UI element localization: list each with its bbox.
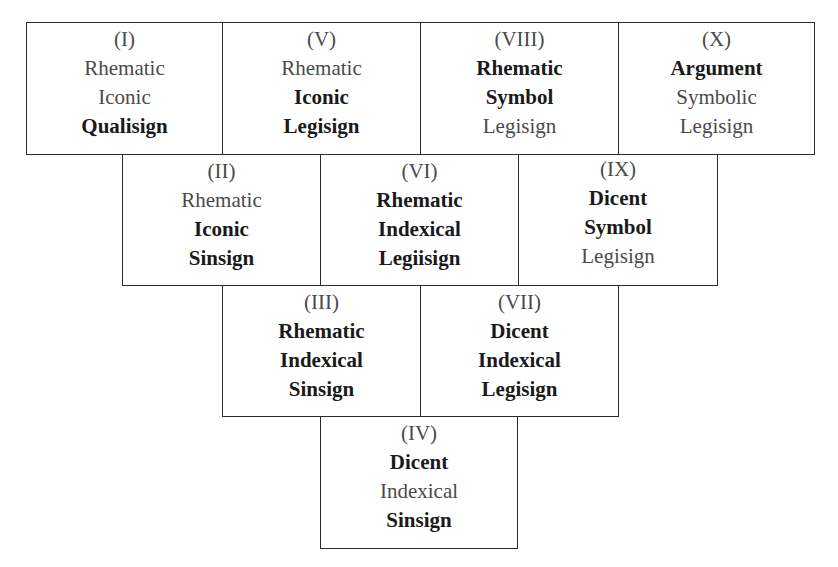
box-line-3: Legisign	[581, 242, 655, 271]
box-line-2: Iconic	[194, 215, 249, 244]
box-line-3: Legisign	[483, 112, 557, 141]
box-line-1: Rhematic	[376, 186, 462, 215]
box-line-2: Symbolic	[676, 83, 757, 112]
box-numeral: (IX)	[600, 155, 636, 184]
box-line-1: Dicent	[589, 184, 647, 213]
sign-box-I: (I) Rhematic Iconic Qualisign	[26, 22, 223, 155]
box-line-2: Indexical	[380, 477, 458, 506]
box-line-2: Indexical	[378, 215, 461, 244]
box-line-1: Rhematic	[476, 54, 562, 83]
sign-box-II: (II) Rhematic Iconic Sinsign	[122, 154, 321, 286]
box-line-3: Legisign	[284, 112, 360, 141]
box-line-3: Legisign	[482, 375, 558, 404]
box-line-1: Rhematic	[278, 317, 364, 346]
box-line-1: Rhematic	[281, 54, 361, 83]
sign-box-V: (V) Rhematic Iconic Legisign	[222, 22, 421, 155]
box-line-3: Qualisign	[81, 112, 167, 141]
box-numeral: (VII)	[498, 288, 541, 317]
box-line-1: Rhematic	[84, 54, 164, 83]
box-line-2: Iconic	[294, 83, 349, 112]
box-numeral: (VIII)	[494, 25, 544, 54]
box-line-1: Dicent	[390, 448, 448, 477]
box-line-1: Rhematic	[181, 186, 261, 215]
box-numeral: (IV)	[401, 419, 437, 448]
box-numeral: (III)	[304, 288, 339, 317]
sign-classification-diagram: (I) Rhematic Iconic Qualisign (V) Rhemat…	[0, 0, 838, 567]
box-numeral: (I)	[114, 25, 135, 54]
box-numeral: (V)	[307, 25, 336, 54]
box-line-3: Legisign	[680, 112, 754, 141]
box-line-1: Argument	[670, 54, 762, 83]
sign-box-VIII: (VIII) Rhematic Symbol Legisign	[420, 22, 619, 155]
box-line-1: Dicent	[490, 317, 548, 346]
box-line-3: Legiisign	[379, 244, 461, 273]
box-line-3: Sinsign	[386, 506, 451, 535]
sign-box-VII: (VII) Dicent Indexical Legisign	[420, 285, 619, 417]
box-numeral: (II)	[208, 157, 236, 186]
sign-box-VI: (VI) Rhematic Indexical Legiisign	[320, 154, 519, 286]
box-line-2: Symbol	[584, 213, 652, 242]
box-line-2: Iconic	[98, 83, 150, 112]
box-line-2: Indexical	[478, 346, 561, 375]
sign-box-X: (X) Argument Symbolic Legisign	[618, 22, 815, 155]
sign-box-IV: (IV) Dicent Indexical Sinsign	[320, 416, 518, 549]
box-line-2: Symbol	[486, 83, 554, 112]
box-numeral: (VI)	[401, 157, 437, 186]
box-line-3: Sinsign	[189, 244, 254, 273]
sign-box-III: (III) Rhematic Indexical Sinsign	[222, 285, 421, 417]
box-numeral: (X)	[702, 25, 731, 54]
box-line-3: Sinsign	[289, 375, 354, 404]
sign-box-IX: (IX) Dicent Symbol Legisign	[518, 154, 718, 286]
box-line-2: Indexical	[280, 346, 363, 375]
